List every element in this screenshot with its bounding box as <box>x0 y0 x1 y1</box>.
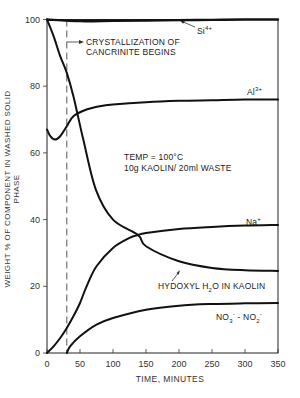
label-hydroxyl-a: HYDOXYL H <box>158 281 209 291</box>
x-tick-label: 0 <box>44 359 49 369</box>
label-al: Al3+ <box>247 84 262 97</box>
x-tick-label: 350 <box>270 359 285 369</box>
label-no2: - NO <box>235 312 256 322</box>
data-series <box>47 19 278 353</box>
label-si-charge: 4+ <box>205 25 212 31</box>
annotation-crystallization-line2: CANCRINITE BEGINS <box>86 47 176 57</box>
label-al-charge: 3+ <box>255 86 262 92</box>
label-hydroxyl: HYDOXYL H2O IN KAOLIN <box>158 281 265 295</box>
annotation-temp: TEMP = 100°C <box>124 152 183 162</box>
label-na-charge: + <box>257 216 261 222</box>
y-tick-label: 0 <box>35 348 40 358</box>
arrow-head-icon <box>79 40 84 44</box>
label-no3-sub: 3 <box>229 318 233 324</box>
y-axis-label: WEIGHT % OF COMPONENT IN WASHED SOLID PH… <box>3 89 21 289</box>
x-tick-label: 300 <box>237 359 252 369</box>
label-al-text: Al <box>247 87 255 97</box>
x-tick-label: 100 <box>105 359 120 369</box>
x-tick-label: 250 <box>204 359 219 369</box>
series-line-hydroxyl-h2o-in-kaolin <box>47 20 278 271</box>
x-tick-label: 150 <box>138 359 153 369</box>
label-hydroxyl-b: O IN KAOLIN <box>212 281 265 291</box>
label-no3: NO <box>216 312 229 322</box>
label-si: Si4+ <box>197 23 212 36</box>
x-tick-label: 50 <box>75 359 85 369</box>
x-axis-label: TIME, MINUTES <box>100 374 240 384</box>
label-no2-sup: - <box>260 311 262 317</box>
y-tick-label: 100 <box>25 15 40 25</box>
label-na-text: Na <box>246 217 257 227</box>
y-tick-label: 40 <box>30 215 40 225</box>
y-tick-label: 60 <box>30 148 40 158</box>
x-tick-label: 200 <box>171 359 186 369</box>
chart-plot: 050100150200250300350020406080100 <box>0 0 300 398</box>
label-na: Na+ <box>246 214 261 227</box>
y-tick-label: 80 <box>30 81 40 91</box>
y-tick-label: 20 <box>30 281 40 291</box>
label-nitrate-nitrite: NO3- - NO2- <box>216 309 262 326</box>
annotation-ratio: 10g KAOLIN/ 20ml WASTE <box>124 163 232 173</box>
label-no2-sub: 2 <box>256 318 260 324</box>
annotation-crystallization-line1: CRYSTALLIZATION OF <box>86 37 180 47</box>
label-si-text: Si <box>197 26 205 36</box>
